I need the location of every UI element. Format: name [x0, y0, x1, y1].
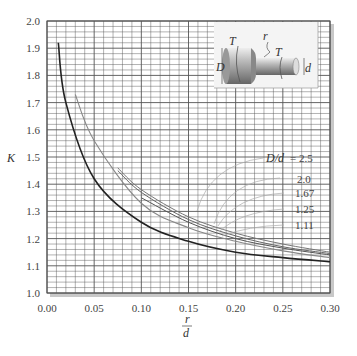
y-axis-label: K [6, 151, 16, 165]
y-tick-label: 1.1 [26, 260, 40, 272]
legend-item-1-67: 1.67 [295, 187, 315, 199]
y-tick-label: 1.5 [26, 151, 40, 163]
x-axis-label-numerator: r [185, 312, 190, 326]
inset-label-D: D [215, 60, 225, 74]
y-tick-label: 1.8 [26, 69, 40, 81]
x-tick-label: 0.05 [85, 302, 105, 314]
x-tick-label: 0.30 [320, 302, 340, 314]
chart: T r T D d D/d = 2.5 2.0 1.67 1.25 1.11 1… [0, 0, 357, 356]
x-tick-label: 0.20 [226, 302, 246, 314]
y-tick-label: 1.9 [26, 42, 40, 54]
y-tick-label: 1.6 [26, 124, 40, 136]
legend-item-2-0: 2.0 [297, 173, 311, 185]
y-tick-label: 2.0 [26, 15, 40, 27]
x-tick-label: 0.25 [273, 302, 293, 314]
y-tick-label: 1.2 [26, 233, 40, 245]
y-tick-label: 1.0 [26, 287, 40, 299]
shaft-inset: T r T D d [214, 22, 318, 88]
y-tick-label: 1.7 [26, 97, 40, 109]
legend-item-2-5: = 2.5 [290, 152, 313, 164]
legend-title: D/d [265, 151, 285, 165]
x-axis-label-denominator: d [183, 326, 190, 340]
y-axis-ticks: 1.01.11.21.31.41.51.61.71.81.92.0 [26, 15, 40, 299]
inset-label-d: d [305, 61, 312, 75]
y-tick-label: 1.3 [26, 205, 40, 217]
x-tick-label: 0.10 [132, 302, 152, 314]
y-tick-label: 1.4 [26, 178, 40, 190]
x-tick-label: 0.00 [37, 302, 57, 314]
inset-label-r: r [263, 29, 268, 43]
legend-item-1-25: 1.25 [295, 203, 315, 215]
legend-item-1-11: 1.11 [295, 219, 314, 231]
